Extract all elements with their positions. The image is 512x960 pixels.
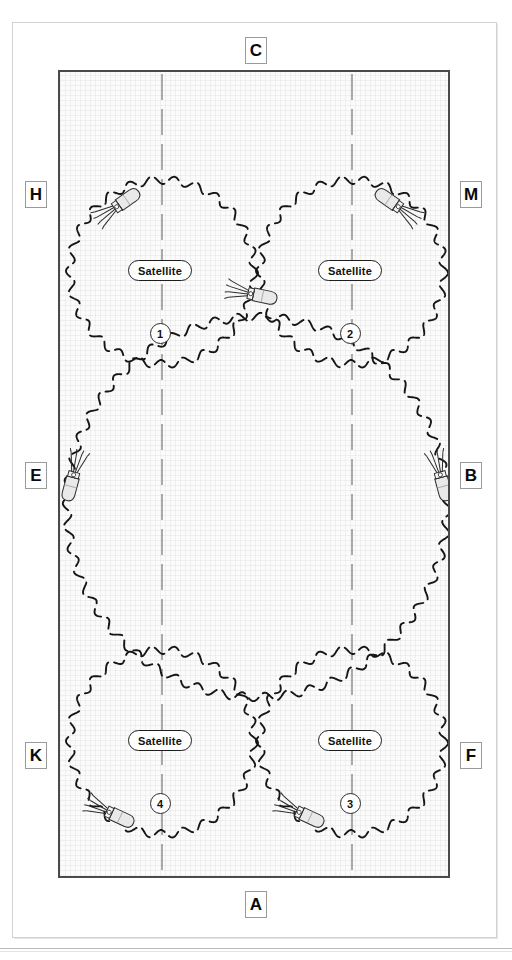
satellite-pill-4[interactable]: Satellite	[128, 730, 192, 751]
satellite-icon-top-right	[371, 183, 426, 230]
edge-label-k[interactable]: K	[25, 742, 47, 769]
edge-label-h[interactable]: H	[25, 181, 47, 208]
satellite-icon-bottom-right	[272, 792, 328, 833]
footprint-number-2[interactable]: 2	[340, 323, 361, 344]
footprint-vector-layer	[60, 72, 450, 878]
footprint-plot-area	[58, 70, 450, 878]
satellite-pill-3[interactable]: Satellite	[318, 730, 382, 751]
satellite-icon-center-top	[223, 278, 279, 309]
page-separator-line-secondary	[0, 951, 512, 952]
satellite-pill-2[interactable]: Satellite	[318, 260, 382, 281]
edge-label-f[interactable]: F	[460, 742, 482, 769]
page-separator-line	[0, 948, 512, 949]
satellite-icon-bottom-left	[82, 792, 138, 833]
edge-label-b[interactable]: B	[460, 462, 482, 489]
satellite-pill-1[interactable]: Satellite	[128, 260, 192, 281]
footprint-number-3[interactable]: 3	[340, 793, 361, 814]
satellite-icon-right-middle	[424, 447, 450, 503]
edge-label-m[interactable]: M	[460, 181, 482, 208]
footprint-number-4[interactable]: 4	[150, 793, 171, 814]
diagram-canvas: C A H E K M B F Satellite1Satellite2Sate…	[0, 0, 512, 960]
edge-label-a[interactable]: A	[245, 891, 267, 918]
footprint-number-1[interactable]: 1	[150, 323, 171, 344]
footprint-circle-5	[63, 313, 450, 701]
satellite-icon-left-middle	[60, 447, 90, 503]
edge-label-e[interactable]: E	[25, 462, 47, 489]
edge-label-c[interactable]: C	[245, 37, 267, 64]
